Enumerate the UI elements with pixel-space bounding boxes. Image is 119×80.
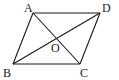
edge-dc [80, 13, 100, 64]
vertex-label-d: D [102, 1, 111, 15]
vertex-label-a: A [24, 1, 33, 15]
vertex-label-c: C [80, 66, 88, 80]
parallelogram-diagram: A D B C O [0, 0, 119, 80]
intersection-label-o: O [51, 41, 60, 55]
vertex-label-b: B [3, 66, 11, 80]
diagonal-bd [13, 13, 100, 64]
edge-ba [13, 13, 33, 64]
